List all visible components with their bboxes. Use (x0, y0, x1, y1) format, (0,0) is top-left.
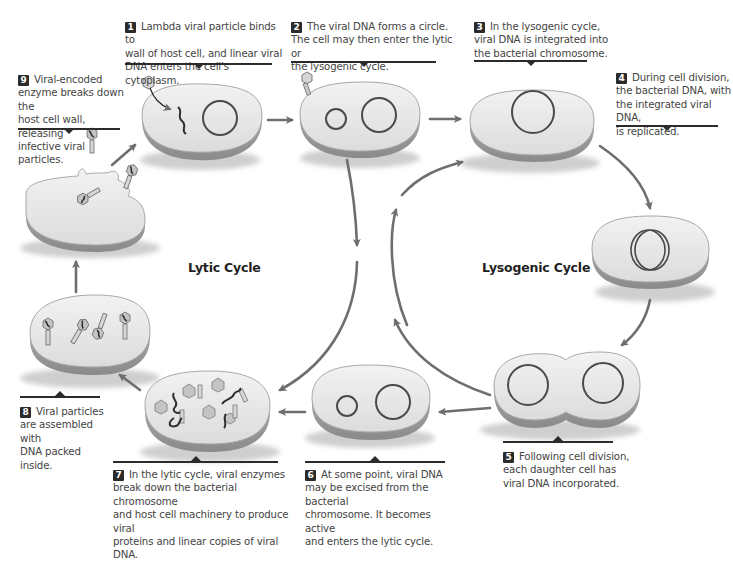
arrow-3-to-4 (600, 146, 650, 208)
caption-rule-7 (113, 461, 278, 463)
cell-step-1 (140, 76, 262, 170)
step-number-badge: 8 (20, 407, 31, 418)
cell-step-8 (20, 295, 160, 388)
cell-step-2 (300, 72, 420, 168)
caption-line: Viral-encoded (34, 74, 102, 85)
caption-line: the integrated viral DNA, (616, 99, 712, 123)
caption-line: Following cell division, (519, 451, 629, 462)
caption-line: each daughter cell has (503, 464, 616, 475)
caption-line: viral DNA is integrated into (474, 34, 608, 45)
caption-rule-6 (305, 461, 445, 463)
caption-line: In the lytic cycle, viral enzymes (129, 469, 285, 480)
caption-line: DNA packed inside. (20, 446, 81, 470)
caption-line: are assembled with (20, 419, 93, 443)
caption-line: the bacterial DNA, with (616, 85, 731, 96)
lysogenic-cycle-label: Lysogenic Cycle (482, 260, 590, 275)
arrow-4-to-5 (622, 300, 650, 345)
caption-line: break down the bacterial chromosome (113, 482, 237, 506)
caption-line: During cell division, (632, 72, 729, 83)
cell-step-5 (480, 352, 640, 440)
caption-rule-8 (20, 396, 100, 398)
caption-rule-9 (18, 128, 120, 130)
caption-line: wall of host cell, and linear viral (125, 48, 282, 59)
caption-line: viral DNA incorporated. (503, 478, 619, 489)
caption-step-2: 2The viral DNA forms a circle. The cell … (291, 20, 456, 74)
arrow-lysogenic-up (392, 210, 407, 325)
caption-step-9: 9Viral-encoded enzyme breaks down the ho… (18, 73, 133, 167)
caption-line: infective viral particles. (18, 141, 85, 165)
caption-rule-5 (503, 441, 613, 443)
step-number-badge: 2 (291, 22, 302, 33)
caption-line: and enters the lytic cycle. (305, 536, 433, 547)
caption-line: In the lysogenic cycle, (490, 21, 600, 32)
caption-step-5: 5Following cell division, each daughter … (503, 450, 633, 490)
step-number-badge: 3 (474, 22, 485, 33)
caption-line: Lambda viral particle binds to (125, 21, 276, 45)
caption-line: host cell wall, releasing (18, 114, 85, 138)
caption-line: and host cell machinery to produce viral (113, 509, 288, 533)
caption-step-4: 4During cell division, the bacterial DNA… (616, 71, 733, 138)
caption-step-7: 7In the lytic cycle, viral enzymes break… (113, 468, 293, 562)
caption-step-6: 6At some point, viral DNA may be excised… (305, 468, 455, 548)
step-number-badge: 1 (125, 22, 136, 33)
caption-rule-2 (291, 61, 436, 63)
caption-line: chromosome. It becomes active (305, 509, 431, 533)
caption-step-1: 1Lambda viral particle binds to wall of … (125, 20, 285, 87)
caption-rule-3 (474, 60, 587, 62)
arrow-2-to-lytic (347, 160, 357, 245)
lytic-cycle-label: Lytic Cycle (188, 260, 261, 275)
arrow-to-3 (402, 162, 462, 195)
caption-line: DNA enters the cell's cytoplasm. (125, 61, 229, 85)
caption-line: At some point, viral DNA (321, 469, 443, 480)
arrow-5-to-6 (440, 408, 490, 412)
caption-rule-1 (125, 63, 272, 65)
step-number-badge: 4 (616, 73, 627, 84)
caption-line: Viral particles (36, 406, 104, 417)
caption-step-8: 8Viral particles are assembled with DNA … (20, 405, 110, 472)
step-number-badge: 5 (503, 452, 514, 463)
cell-step-3 (460, 90, 600, 173)
step-number-badge: 6 (305, 470, 316, 481)
caption-line: proteins and linear copies of viral DNA. (113, 536, 278, 560)
caption-line: enzyme breaks down the (18, 87, 124, 111)
caption-line: may be excised from the bacterial (305, 482, 428, 506)
cell-step-7 (140, 371, 280, 462)
caption-line: the lysogenic cycle. (291, 61, 389, 72)
cell-step-6 (305, 365, 435, 448)
caption-line: The viral DNA forms a circle. (307, 21, 448, 32)
caption-line: the bacterial chromosome. (474, 48, 608, 59)
caption-step-3: 3In the lysogenic cycle, viral DNA is in… (474, 20, 614, 60)
step-number-badge: 7 (113, 470, 124, 481)
caption-rule-4 (616, 125, 718, 127)
caption-line: The cell may then enter the lytic or (291, 34, 453, 58)
step-number-badge: 9 (18, 75, 29, 86)
cell-step-4 (592, 216, 715, 302)
